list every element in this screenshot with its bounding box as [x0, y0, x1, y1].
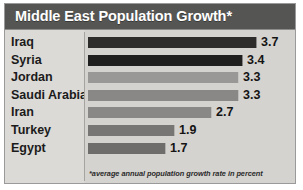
bar	[88, 125, 175, 136]
bar-value-label: 3.3	[243, 87, 260, 104]
bar-row: 3.4	[5, 52, 295, 69]
bar	[88, 72, 239, 83]
bar-row: 1.7	[5, 140, 295, 157]
bar-value-label: 3.3	[243, 69, 260, 86]
chart-figure: Middle East Population Growth* IraqSyria…	[4, 3, 296, 184]
bar-value-label: 1.7	[170, 140, 187, 157]
bar	[88, 107, 212, 118]
bar-value-label: 3.7	[261, 34, 278, 51]
footnote-text: *average annual population growth rate i…	[89, 169, 263, 178]
chart-body: IraqSyriaJordanSaudi ArabiaIranTurkeyEgy…	[5, 30, 295, 183]
bar	[88, 55, 243, 66]
bar-row: 1.9	[5, 122, 295, 139]
bar	[88, 90, 239, 101]
bar-row: 3.7	[5, 34, 295, 51]
bar-value-label: 2.7	[216, 104, 233, 121]
bar-row: 2.7	[5, 104, 295, 121]
chart-header: Middle East Population Growth*	[5, 4, 295, 30]
bar	[88, 143, 166, 154]
bar-value-label: 3.4	[247, 52, 264, 69]
bar-value-label: 1.9	[179, 122, 196, 139]
bar-row: 3.3	[5, 87, 295, 104]
page-title: Middle East Population Growth*	[15, 8, 232, 24]
bar	[88, 37, 257, 48]
bar-row: 3.3	[5, 69, 295, 86]
